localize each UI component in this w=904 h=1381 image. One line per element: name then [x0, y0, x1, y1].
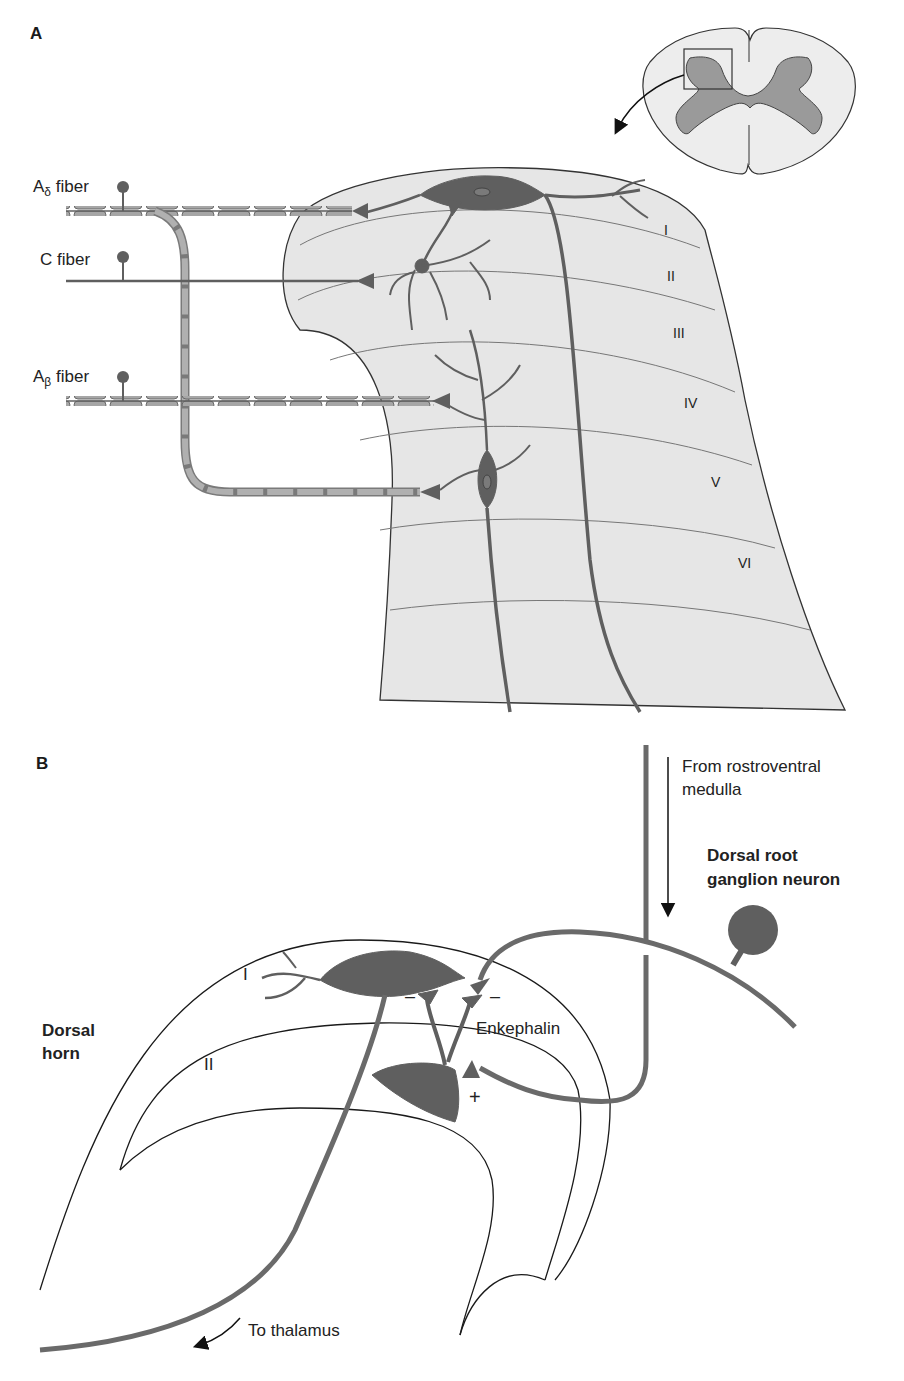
thalamus-arrow [200, 1318, 240, 1345]
c-fiber-label: C fiber [40, 250, 90, 270]
drg-label-line1: Dorsal root [707, 846, 798, 866]
panel-b-label: B [36, 754, 48, 774]
dorsal-horn-outline [40, 940, 610, 1335]
lamina-1-label-b: I [243, 965, 248, 985]
diagram-canvas [0, 0, 904, 1381]
lamina-label-2: II [667, 268, 675, 284]
lamina-label-6: VI [738, 555, 751, 571]
dorsal-horn-slab [283, 168, 845, 710]
dorsal-horn-label-line2: horn [42, 1044, 80, 1064]
lamina-2-label-b: II [204, 1055, 213, 1075]
thalamus-label: To thalamus [248, 1321, 340, 1341]
lamina-label-1: I [664, 222, 668, 238]
drg-label-line2: ganglion neuron [707, 870, 840, 890]
rvm-label-line1: From rostroventral [682, 757, 821, 777]
spinal-cord-inset [618, 28, 855, 174]
a-delta-fiber-label: Aδ fiber [33, 177, 89, 200]
drg-neuron [470, 905, 795, 1027]
excitatory-sign: + [469, 1086, 481, 1109]
enkephalin-label: Enkephalin [476, 1019, 560, 1039]
lamina-label-5: V [711, 474, 720, 490]
a-beta-fiber-label: Aβ fiber [33, 367, 89, 390]
projection-neuron-b [40, 951, 465, 1350]
inhibitory-sign-left: – [405, 986, 415, 1007]
lamina-label-4: IV [684, 395, 697, 411]
rvm-label-line2: medulla [682, 780, 742, 800]
dorsal-horn-label-line1: Dorsal [42, 1021, 95, 1041]
inhibitory-sign-right: – [490, 986, 500, 1007]
enkephalin-interneuron [372, 990, 482, 1122]
rvm-synapse-terminal [462, 1060, 480, 1078]
descending-rvm-axon [480, 745, 646, 1102]
lamina-label-3: III [673, 325, 685, 341]
